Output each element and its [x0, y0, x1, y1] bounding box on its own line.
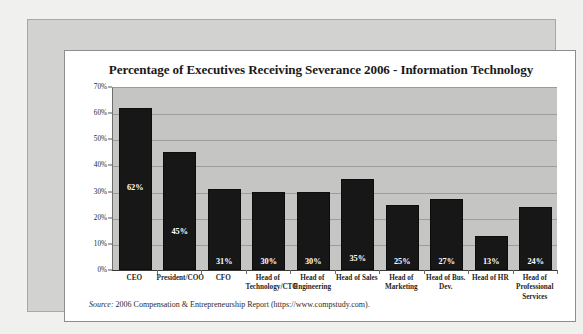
bar-value-label: 31%	[209, 257, 240, 266]
bar-value-label: 45%	[164, 227, 195, 236]
bar-value-label: 27%	[431, 257, 462, 266]
bar: 30%	[297, 192, 330, 270]
x-axis-category-label: Head of Bus.Dev.	[424, 274, 469, 293]
y-axis-tick-label: 50%	[94, 135, 107, 143]
x-axis-category-line: Professional	[513, 283, 558, 292]
x-axis-category-label: Head ofTechnology/CTO	[246, 274, 291, 293]
bar: 31%	[208, 189, 241, 270]
x-axis-category-line: Dev.	[424, 283, 469, 292]
source-note-lead: Source:	[89, 300, 114, 309]
x-axis-category-label: President/COO	[157, 274, 202, 283]
bar-value-label: 25%	[387, 257, 418, 266]
y-axis-tick-label: 40%	[94, 161, 107, 169]
bar: 27%	[430, 199, 463, 270]
x-axis-category-label: CEO	[112, 274, 157, 283]
source-note: Source: 2006 Compensation & Entrepreneur…	[89, 300, 370, 309]
bar: 45%	[163, 152, 196, 270]
page-title: Percentage of Executives Receiving Sever…	[65, 62, 577, 78]
bar-value-label: 30%	[298, 257, 329, 266]
bar-value-label: 30%	[253, 257, 284, 266]
x-axis-category-line: CEO	[112, 274, 157, 283]
x-axis-category-line: President/COO	[157, 274, 202, 283]
x-axis-category-line: Head of	[513, 274, 558, 283]
y-axis-tick-label: 30%	[94, 188, 107, 196]
bar-series: 62%45%31%30%30%35%25%27%13%24%	[113, 88, 557, 270]
x-axis-category-line: Head of HR	[468, 274, 513, 283]
chart-card: Percentage of Executives Receiving Sever…	[64, 50, 576, 322]
x-axis-category-line: Head of Sales	[335, 274, 380, 283]
y-axis-tick-label: 20%	[94, 214, 107, 222]
x-axis-category-label: Head ofMarketing	[379, 274, 424, 293]
bar: 35%	[341, 179, 374, 271]
y-axis: 0%10%20%30%40%50%60%70%	[89, 87, 112, 270]
chart-outer-frame: Percentage of Executives Receiving Sever…	[27, 19, 556, 312]
y-axis-tick-label: 70%	[94, 83, 107, 91]
x-axis-category-label: Head of HR	[468, 274, 513, 283]
x-axis-category-line: Marketing	[379, 283, 424, 292]
x-axis-category-line: Head of	[379, 274, 424, 283]
bar: 62%	[119, 108, 152, 270]
x-axis-category-label: Head ofProfessionalServices	[513, 274, 558, 302]
x-axis-category-line: Head of	[290, 274, 335, 283]
chart-plot-wrapper: 0%10%20%30%40%50%60%70% 62%45%31%30%30%3…	[89, 87, 557, 300]
bar-value-label: 13%	[476, 257, 507, 266]
bar: 13%	[475, 236, 508, 270]
page-background: Percentage of Executives Receiving Sever…	[0, 0, 583, 334]
bar-value-label: 24%	[520, 257, 551, 266]
bar: 25%	[386, 205, 419, 270]
source-note-text: 2006 Compensation & Entrepreneurship Rep…	[114, 300, 370, 309]
x-axis-category-label: CFO	[201, 274, 246, 283]
x-axis-category-label: Head of Sales	[335, 274, 380, 283]
plot-area: 62%45%31%30%30%35%25%27%13%24%	[112, 87, 557, 270]
x-axis-category-line: Head of Bus.	[424, 274, 469, 283]
x-axis-category-line: Technology/CTO	[246, 283, 291, 292]
bar-value-label: 35%	[342, 254, 373, 263]
x-axis-tick-mark	[557, 270, 558, 274]
y-axis-tick-label: 60%	[94, 109, 107, 117]
x-axis-category-line: Services	[513, 293, 558, 302]
x-axis-category-line: CFO	[201, 274, 246, 283]
bar-value-label: 62%	[120, 183, 151, 192]
y-axis-tick-label: 10%	[94, 240, 107, 248]
bar: 30%	[252, 192, 285, 270]
x-axis-category-line: Engineering	[290, 283, 335, 292]
y-axis-tick-label: 0%	[97, 266, 107, 274]
x-axis-category-label: Head ofEngineering	[290, 274, 335, 293]
bar: 24%	[519, 207, 552, 270]
x-axis-category-line: Head of	[246, 274, 291, 283]
